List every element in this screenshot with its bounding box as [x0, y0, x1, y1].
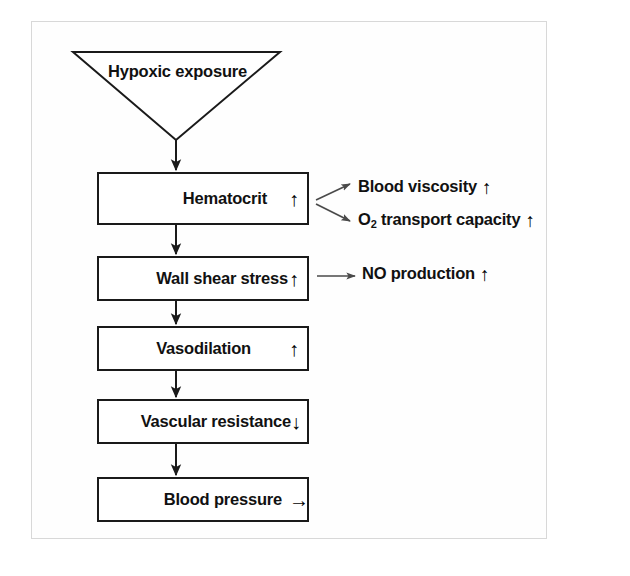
node-wall-shear-stress[interactable]: Wall shear stress ↑ [97, 256, 309, 301]
node-hematocrit-label: Hematocrit [183, 190, 267, 207]
node-blood-pressure[interactable]: Blood pressure → [97, 477, 309, 522]
hypoxic-exposure-label: Hypoxic exposure [85, 62, 270, 81]
connector-hematocrit-to-blood-viscosity [316, 184, 350, 200]
connector-hematocrit-to-o2-transport [316, 204, 350, 221]
side-effect-blood-viscosity: Blood viscosity↑ [358, 178, 491, 197]
node-vascular-resistance-label: Vascular resistance [141, 413, 291, 430]
side-effect-no-production-label: NO production [362, 264, 475, 282]
up-arrow-icon: ↑ [289, 269, 299, 289]
side-effect-no-production: NO production↑ [362, 265, 489, 284]
side-effect-o2-transport-capacity: O2 transport capacity↑ [358, 211, 535, 230]
side-effect-blood-viscosity-label: Blood viscosity [358, 177, 477, 195]
node-vasodilation-label: Vasodilation [156, 340, 251, 357]
up-arrow-icon: ↑ [289, 339, 299, 359]
diagram-canvas [0, 0, 630, 576]
up-arrow-icon: ↑ [482, 178, 491, 197]
node-vasodilation[interactable]: Vasodilation ↑ [97, 326, 309, 371]
side-effect-o2-transport-capacity-prefix: O [358, 210, 371, 228]
node-wall-shear-stress-label: Wall shear stress [156, 270, 288, 287]
down-arrow-icon: ↓ [291, 412, 301, 432]
right-arrow-icon: → [289, 490, 309, 510]
side-effect-o2-transport-capacity-suffix: transport capacity [377, 210, 521, 228]
up-arrow-icon: ↑ [480, 265, 489, 284]
node-vascular-resistance[interactable]: Vascular resistance ↓ [97, 399, 309, 444]
node-blood-pressure-label: Blood pressure [164, 491, 282, 508]
up-arrow-icon: ↑ [289, 189, 299, 209]
up-arrow-icon: ↑ [525, 211, 534, 230]
node-hematocrit[interactable]: Hematocrit ↑ [97, 172, 309, 225]
